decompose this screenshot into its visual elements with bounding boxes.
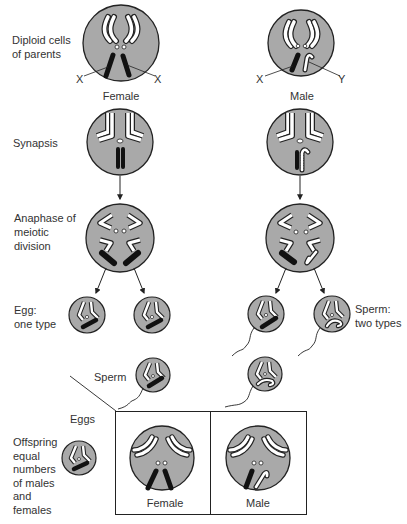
egg-cell-left [69,297,105,333]
male-anaphase-cell [266,204,334,272]
sperm-cell-y [298,296,350,356]
male-synapsis-cell [267,109,333,175]
punnett-egg [62,441,96,475]
female-anaphase-cell [86,204,154,272]
meiosis-sex-determination-diagram [0,0,407,524]
female-parent-cell [83,5,159,81]
punnett-diagonal-line [70,376,116,411]
punnett-sperm-y [225,357,282,407]
egg-cell-right [134,297,170,333]
arrow-sperm-right [314,268,324,293]
arrow-sperm-left [276,268,286,293]
sperm-cell-x [232,296,284,356]
arrow-egg-right [134,268,144,293]
female-synapsis-cell [87,109,153,175]
sperm-tail [232,328,254,356]
male-parent-cell [265,10,340,76]
punnett-sperm-x [118,358,170,409]
sperm-tail [298,328,320,356]
arrow-egg-left [96,268,106,293]
sperm-tail [225,386,253,407]
offspring-female-cell [130,426,194,490]
offspring-male-cell [226,426,290,490]
sperm-tail [118,388,143,409]
